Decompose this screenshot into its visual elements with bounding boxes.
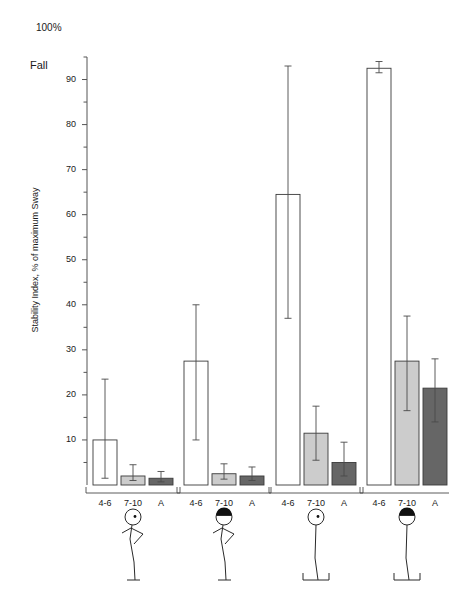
- top-percent-annotation: 100%: [36, 22, 62, 33]
- bars-layer: [93, 62, 447, 485]
- pictogram-standing-eyes-closed: [213, 508, 234, 581]
- y-axis-title: Stability Index, % of maximum Sway: [30, 155, 40, 365]
- chart-figure: 100% Fall Stability Index, % of maximum …: [0, 0, 449, 598]
- y-tick-label-20: 20: [56, 389, 76, 399]
- bracket-eyes-open-normal-stance: [86, 487, 180, 493]
- bracket-eyes-closed-foam-platform: [360, 487, 449, 493]
- pictogram-standing-eyes-open-platform: [303, 509, 329, 580]
- x-label-eyes-open-normal-stance-A: A: [143, 498, 179, 508]
- pictogram-standing-eyes-closed-platform: [394, 508, 420, 581]
- x-label-eyes-closed-foam-platform-A: A: [417, 498, 449, 508]
- y-tick-label-50: 50: [56, 254, 76, 264]
- x-axis-brackets: [86, 487, 449, 493]
- y-tick-label-80: 80: [56, 119, 76, 129]
- pictogram-standing-eyes-open: [122, 509, 143, 580]
- y-tick-label-40: 40: [56, 299, 76, 309]
- bar-eyes-closed-foam-platform-4-6: [367, 68, 391, 485]
- y-tick-label-10: 10: [56, 434, 76, 444]
- y-tick-label-90: 90: [56, 74, 76, 84]
- y-axis: [82, 57, 87, 485]
- fall-annotation: Fall: [30, 59, 48, 71]
- x-label-eyes-closed-normal-stance-A: A: [234, 498, 270, 508]
- pictograms-layer: [122, 508, 420, 581]
- bracket-eyes-closed-normal-stance: [177, 487, 271, 493]
- y-tick-label-30: 30: [56, 344, 76, 354]
- bracket-eyes-open-foam-platform: [269, 487, 363, 493]
- x-label-eyes-open-foam-platform-A: A: [326, 498, 362, 508]
- y-tick-label-60: 60: [56, 209, 76, 219]
- y-tick-label-70: 70: [56, 164, 76, 174]
